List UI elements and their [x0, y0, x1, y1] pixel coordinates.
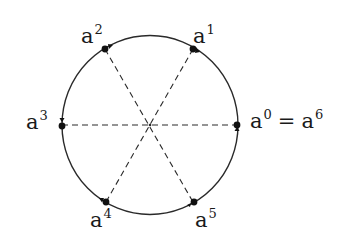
label-a6-exp: 6 — [315, 107, 323, 122]
label-a0-eq: = — [278, 109, 296, 133]
point-a3 — [59, 118, 66, 129]
label-a1-exp: 1 — [207, 22, 215, 37]
center-point — [149, 124, 152, 127]
label-a5-exp: 5 — [209, 206, 217, 221]
point-a2 — [102, 44, 113, 52]
label-a3: a3 — [26, 112, 48, 133]
label-a4-exp: 4 — [104, 206, 112, 221]
label-a0-equals-a6: a0=a6 — [250, 111, 323, 132]
roots-of-unity-diagram: a0=a6 a1 a2 a3 a4 a5 — [0, 0, 347, 244]
label-a5: a5 — [195, 210, 217, 231]
label-a4: a4 — [90, 210, 112, 231]
label-a4-base: a — [90, 208, 103, 232]
point-a5 — [187, 199, 197, 207]
label-a3-base: a — [26, 110, 39, 134]
label-a2-base: a — [81, 24, 94, 48]
label-a1-base: a — [193, 24, 206, 48]
point-a0 — [234, 122, 241, 131]
label-a2: a2 — [81, 26, 103, 47]
label-a0-base: a — [250, 109, 263, 133]
label-a5-base: a — [195, 208, 208, 232]
label-a3-exp: 3 — [40, 108, 48, 123]
label-a6-base: a — [301, 109, 314, 133]
label-a0-exp: 0 — [264, 107, 272, 122]
label-a1: a1 — [193, 26, 215, 47]
label-a2-exp: 2 — [95, 22, 103, 37]
